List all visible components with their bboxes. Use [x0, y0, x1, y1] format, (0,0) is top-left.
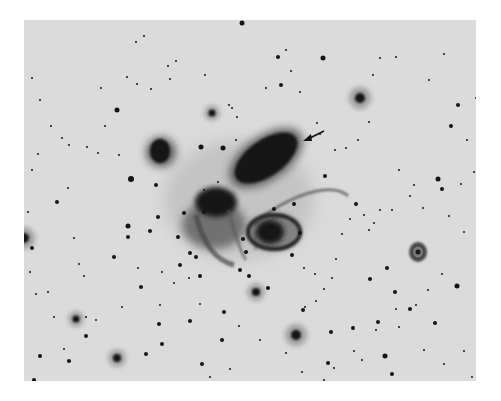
bright-star — [209, 110, 216, 117]
star — [321, 56, 326, 61]
star — [326, 361, 330, 365]
star — [115, 108, 120, 113]
faint-star — [31, 169, 33, 171]
star — [67, 359, 71, 363]
faint-star — [204, 74, 206, 76]
faint-star — [357, 139, 359, 141]
sky-field — [24, 20, 476, 381]
faint-star — [159, 304, 161, 306]
faint-star — [100, 87, 102, 89]
faint-star — [319, 133, 321, 135]
faint-star — [323, 379, 325, 381]
star — [238, 268, 242, 272]
star — [128, 176, 134, 182]
faint-star — [335, 258, 337, 260]
star — [455, 284, 460, 289]
star — [194, 255, 198, 259]
star — [390, 372, 394, 376]
faint-star — [83, 275, 85, 277]
star — [112, 255, 116, 259]
faint-star — [345, 147, 347, 149]
star — [376, 320, 380, 324]
faint-star — [53, 316, 55, 318]
faint-star — [118, 154, 120, 156]
star — [176, 235, 180, 239]
faint-star — [167, 65, 169, 67]
faint-star — [63, 348, 65, 350]
star — [393, 290, 397, 294]
faint-star — [137, 267, 139, 269]
star — [244, 250, 248, 254]
faint-star — [323, 288, 325, 290]
star — [30, 246, 34, 250]
faint-star — [27, 211, 29, 213]
faint-star — [413, 184, 415, 186]
faint-star — [135, 41, 137, 43]
star — [241, 237, 245, 241]
star — [276, 55, 280, 59]
star — [272, 207, 276, 211]
star — [139, 285, 143, 289]
faint-star — [50, 125, 52, 127]
faint-star — [463, 231, 465, 233]
faint-star — [238, 325, 240, 327]
star — [266, 286, 270, 290]
astronomical-plate — [24, 20, 476, 381]
faint-star — [68, 144, 70, 146]
faint-star — [236, 116, 238, 118]
faint-star — [422, 207, 424, 209]
bright-star — [73, 316, 80, 323]
faint-star — [409, 195, 411, 197]
faint-star — [104, 125, 106, 127]
faint-star — [301, 371, 303, 373]
faint-star — [86, 146, 88, 148]
faint-star — [121, 306, 123, 308]
star — [202, 210, 206, 214]
star — [199, 145, 204, 150]
star — [354, 202, 358, 206]
faint-star — [175, 60, 177, 62]
faint-star — [316, 122, 318, 124]
faint-star — [188, 277, 190, 279]
faint-star — [471, 376, 473, 378]
star — [456, 103, 460, 107]
faint-star — [448, 215, 450, 217]
star — [292, 202, 296, 206]
faint-star — [199, 303, 201, 305]
faint-star — [443, 53, 445, 55]
faint-star — [173, 282, 175, 284]
faint-star — [37, 153, 39, 155]
faint-star — [334, 149, 336, 151]
faint-star — [375, 329, 377, 331]
faint-star — [341, 233, 343, 235]
faint-star — [415, 304, 417, 306]
faint-star — [150, 88, 152, 90]
faint-star — [85, 316, 87, 318]
faint-star — [333, 367, 335, 369]
faint-star — [235, 139, 237, 141]
star — [279, 83, 283, 87]
star — [222, 310, 226, 314]
left-compact-galaxy — [146, 137, 176, 167]
star — [154, 183, 158, 187]
star — [329, 330, 333, 334]
faint-star — [73, 237, 75, 239]
faint-star — [47, 291, 49, 293]
star — [84, 334, 88, 338]
star — [449, 124, 453, 128]
bright-star — [113, 354, 121, 362]
star — [148, 229, 152, 233]
star — [160, 342, 164, 346]
faint-star — [161, 271, 163, 273]
faint-star — [372, 74, 374, 76]
small-spiral-galaxy-right — [409, 242, 427, 262]
faint-star — [209, 376, 211, 378]
faint-star — [290, 70, 292, 72]
faint-star — [217, 181, 219, 183]
star — [385, 266, 389, 270]
star — [178, 263, 182, 267]
star — [368, 277, 372, 281]
star — [351, 326, 355, 330]
bright-star — [291, 330, 301, 340]
star — [440, 187, 444, 191]
